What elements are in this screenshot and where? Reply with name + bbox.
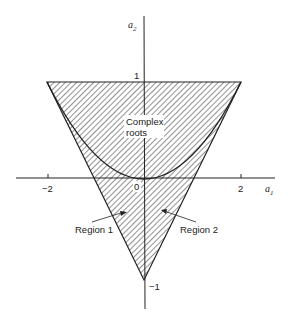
y-tick-label-neg1: −1 [149, 281, 160, 292]
complex-roots-label-line1: Complex [126, 116, 164, 127]
y-tick-label-1: 1 [134, 70, 139, 81]
complex-roots-label-line2: roots [126, 127, 147, 138]
stability-diagram: a2 a1 −2 0 2 1 −1 Complex roots Region 1… [0, 0, 288, 322]
x-tick-label-neg2: −2 [42, 183, 53, 194]
a1-axis-label: a1 [265, 183, 274, 197]
x-tick-label-2: 2 [238, 183, 243, 194]
x-tick-label-0: 0 [134, 181, 139, 192]
a2-axis-label: a2 [128, 19, 137, 33]
region1-label: Region 1 [75, 224, 113, 235]
region2-label: Region 2 [180, 224, 218, 235]
